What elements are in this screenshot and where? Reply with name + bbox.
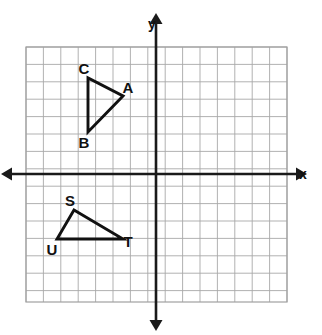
vertex-label-t: T — [123, 233, 132, 250]
x-axis-label: x — [299, 166, 307, 182]
vertex-label-a: A — [123, 79, 134, 96]
figure-root: x y ABCSTU — [0, 0, 322, 335]
vertex-label-b: B — [79, 134, 90, 151]
vertex-label-c: C — [79, 60, 90, 77]
vertex-label-s: S — [65, 192, 75, 209]
y-axis-label: y — [148, 16, 156, 32]
coordinate-plane-figure: x y ABCSTU — [0, 0, 322, 335]
vertex-label-u: U — [47, 241, 58, 258]
canvas-background — [0, 0, 322, 335]
